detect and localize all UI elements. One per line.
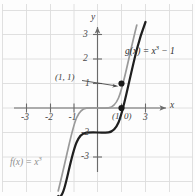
point-label-1-0: (1, 0) <box>112 112 132 121</box>
x-axis-label: x <box>170 101 174 111</box>
point-1-1 <box>118 80 124 86</box>
curve-label-f-text: f(x) = x <box>10 157 39 167</box>
y-axis <box>93 27 102 172</box>
x-tick-label--2: -2 <box>45 113 53 123</box>
graph-figure: -3 -2 -1 3 3 2 1 -2 -3 x y g(x) = x3 − 1… <box>0 0 195 196</box>
y-axis-label: y <box>91 13 95 23</box>
x-tick-label-3: 3 <box>143 113 148 123</box>
curve-label-g-prefix: g(x) = x <box>125 46 156 56</box>
y-tick-label--2: -2 <box>81 128 89 138</box>
y-tick-label-1: 1 <box>85 79 90 89</box>
y-tick-label--3: -3 <box>81 152 89 162</box>
y-tick-label-3: 3 <box>83 30 88 40</box>
x-tick-label--1: -1 <box>69 113 77 123</box>
x-tick-label--3: -3 <box>21 113 29 123</box>
curve-label-f: f(x) = x3 <box>10 158 42 168</box>
curve-label-g-suffix: − 1 <box>159 46 175 56</box>
y-tick-label-2: 2 <box>83 54 88 64</box>
point-label-1-1: (1, 1) <box>55 73 75 82</box>
curve-label-f-exponent: 3 <box>39 155 42 162</box>
curve-label-g: g(x) = x3 − 1 <box>125 47 175 57</box>
